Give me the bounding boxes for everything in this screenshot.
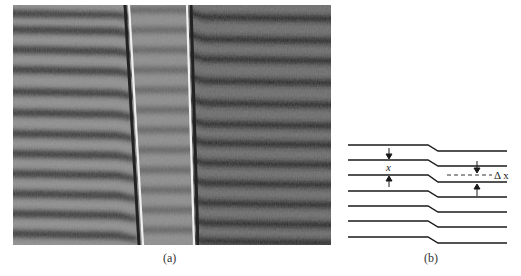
- caption-b: (b): [424, 251, 438, 265]
- fringe-shift-diagram: x Δ x: [340, 130, 521, 250]
- label-x: x: [385, 161, 391, 173]
- fringe-photograph: [13, 5, 331, 245]
- label-delta-x: Δ x: [494, 169, 509, 181]
- fringe-lines: [348, 145, 507, 243]
- caption-a: (a): [163, 251, 176, 265]
